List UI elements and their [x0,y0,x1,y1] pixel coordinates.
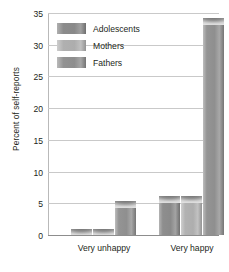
y-tick-label: 5 [38,199,43,209]
x-axis-label: Very happy [147,243,229,253]
bar-top-cap [181,196,202,203]
y-tick-label: 25 [33,72,43,82]
y-tick-label: 10 [33,168,43,178]
legend-item: Adolescents [57,23,140,34]
y-tick-label: 20 [33,104,43,114]
bar-group [159,14,224,235]
x-axis-line [48,235,219,236]
legend-swatch [57,57,86,68]
legend-label: Mothers [93,41,124,51]
bar-top-cap [203,18,224,25]
y-axis-title: Percent of self-reports [11,49,21,169]
bar-top-cap [115,201,136,208]
legend-item: Mothers [57,40,140,51]
legend-label: Adolescents [93,24,140,34]
bar-top-cap [159,196,180,203]
bar [159,196,180,235]
legend-swatch [57,23,86,34]
y-tick-label: 0 [38,231,43,241]
legend-label: Fathers [93,58,122,68]
bar-chart: Percent of self-reports 05101520253035 V… [0,0,229,272]
y-tick-label: 35 [33,9,43,19]
legend-item: Fathers [57,57,140,68]
y-tick-label: 15 [33,136,43,146]
legend-swatch [57,40,86,51]
y-tick-label: 30 [33,41,43,51]
x-axis-label: Very unhappy [59,243,149,253]
bar [203,18,224,235]
bar [181,196,202,235]
bar [115,201,136,235]
legend: AdolescentsMothersFathers [57,23,140,68]
